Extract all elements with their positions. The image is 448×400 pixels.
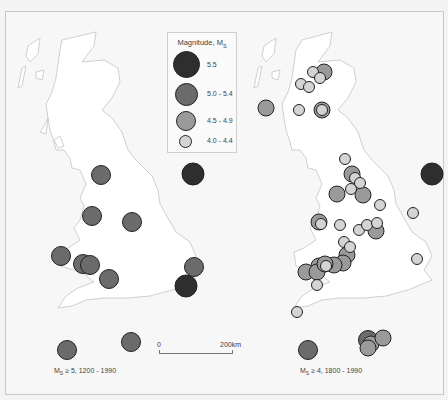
legend-title: Magnitude, MS: [168, 38, 236, 49]
earthquake-marker: [362, 220, 373, 231]
earthquake-marker: [408, 208, 419, 219]
earthquake-marker: [355, 187, 371, 203]
earthquake-marker: [258, 100, 274, 116]
legend-swatch-4-5: [176, 111, 196, 131]
earthquake-marker: [335, 220, 346, 231]
earthquake-marker: [317, 105, 328, 116]
legend-swatch-5-0: [175, 83, 198, 106]
earthquake-marker: [340, 154, 351, 165]
legend-swatch-5-5: [173, 51, 200, 78]
earthquake-marker: [52, 247, 71, 266]
earthquake-marker: [375, 200, 386, 211]
earthquake-marker: [92, 166, 111, 185]
earthquake-marker: [315, 73, 326, 84]
earthquake-marker: [123, 213, 142, 232]
left-map-caption: MS ≥ 5, 1200 - 1990: [54, 367, 116, 376]
earthquake-marker: [345, 242, 356, 253]
legend-label-4-5: 4.5 - 4.9: [207, 117, 233, 124]
earthquake-marker: [375, 330, 391, 346]
earthquake-marker: [185, 258, 204, 277]
earthquake-marker: [421, 163, 443, 185]
earthquake-marker: [292, 307, 303, 318]
scale-end-label: 200km: [220, 341, 241, 348]
legend-label-5-5: 5.5: [207, 61, 217, 68]
earthquake-marker: [58, 341, 77, 360]
earthquake-marker: [412, 254, 423, 265]
legend-row-5-5: 5.5: [168, 49, 236, 79]
earthquake-marker: [321, 261, 332, 272]
earthquake-marker: [299, 341, 318, 360]
earthquake-marker: [346, 184, 357, 195]
legend-label-5-0: 5.0 - 5.4: [207, 90, 233, 97]
earthquake-marker: [304, 82, 315, 93]
legend-row-4-0: 4.0 - 4.4: [168, 133, 236, 163]
earthquake-marker: [81, 256, 100, 275]
right-map-caption: MS ≥ 4, 1800 - 1990: [300, 367, 362, 376]
scale-bar: [159, 350, 233, 354]
earthquake-marker: [294, 105, 305, 116]
earthquake-marker: [175, 275, 197, 297]
earthquake-marker: [360, 340, 376, 356]
earthquake-marker: [182, 163, 204, 185]
earthquake-marker: [329, 186, 345, 202]
earthquake-marker: [122, 333, 141, 352]
earthquake-marker: [312, 280, 323, 291]
earthquake-marker: [372, 218, 383, 229]
legend-label-4-0: 4.0 - 4.4: [207, 137, 233, 144]
scale-start-label: 0: [157, 341, 161, 348]
earthquake-marker: [83, 207, 102, 226]
earthquake-marker: [316, 219, 327, 230]
magnitude-legend: Magnitude, MS 5.5 5.0 - 5.4 4.5 - 4.9 4.…: [167, 32, 237, 153]
earthquake-marker: [100, 270, 119, 289]
legend-swatch-4-0: [179, 135, 192, 148]
legend-row-5-0: 5.0 - 5.4: [168, 81, 236, 111]
